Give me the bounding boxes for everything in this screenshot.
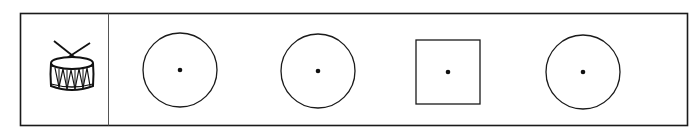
- center-dot: [316, 69, 321, 74]
- shape-circle-1: [143, 33, 217, 107]
- figure-canvas: [0, 0, 699, 132]
- shape-square: [416, 40, 480, 104]
- center-dot: [446, 70, 451, 75]
- shape-circle-2: [281, 34, 355, 108]
- drum-icon: [51, 41, 94, 90]
- center-dot: [178, 68, 183, 73]
- shape-circle-3: [546, 35, 620, 109]
- center-dot: [581, 70, 586, 75]
